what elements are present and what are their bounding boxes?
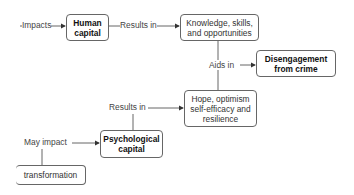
edge-label-results-in-2: Results in [109,102,146,112]
node-disengagement[interactable]: Disengagement from crime [256,50,336,77]
edge-label-results-in-1: Results in [120,20,157,30]
node-human-capital[interactable]: Human capital [66,14,109,41]
node-hope-optimism[interactable]: Hope, optimism self-efficacy and resilie… [184,90,257,127]
node-transformation[interactable]: transformation [16,165,86,185]
edge-label-may-impact: May impact [24,137,67,147]
edge-label-impacts: Impacts [22,20,51,30]
edge-label-aids-in: Aids in [209,60,234,70]
node-psychological-capital[interactable]: Psychological capital [100,130,163,158]
node-knowledge-skills[interactable]: Knowledge, skills, and opportunities [180,14,259,41]
